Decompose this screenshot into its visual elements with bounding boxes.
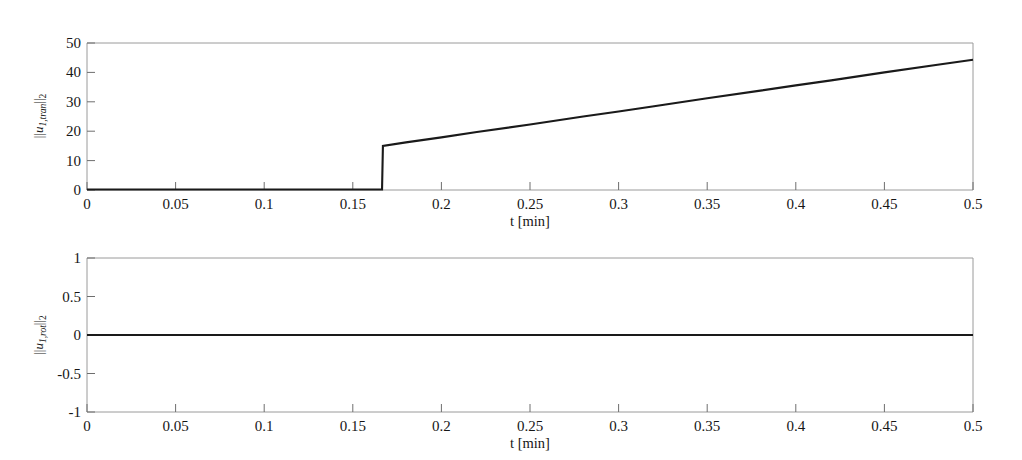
ylabel-subnorm: 2 [38,315,48,320]
x-ticklabel: 0.25 [517,418,543,434]
x-ticklabels-top: 0 0.05 0.1 0.15 0.2 0.25 0.3 0.35 0.4 0.… [83,196,982,212]
x-ticklabel: 0.1 [255,196,274,212]
x-ticklabel: 0.15 [340,418,366,434]
y-ticklabel: 50 [66,35,81,51]
x-ticklabel: 0.5 [964,418,983,434]
ylabel-subnorm: 2 [38,93,48,98]
y-ticklabel: 40 [66,64,81,80]
y-axis-label-top: ||u1,tran||2 [31,93,48,138]
x-ticklabel: 0.05 [162,418,188,434]
y-ticklabel: 0.5 [62,289,81,305]
x-ticklabel: 0.3 [609,418,628,434]
y-ticklabel: 30 [66,94,81,110]
chart-svg-bottom: -1 -0.5 0 0.5 1 0 [0,232,1022,460]
x-ticklabel: 0.3 [609,196,628,212]
x-ticklabel: 0.4 [786,196,805,212]
y-ticklabel: 1 [74,250,82,266]
x-axis-label-bottom: t [min] [510,435,550,451]
x-ticklabel: 0.05 [162,196,188,212]
x-ticklabel: 0.35 [694,418,720,434]
chart-panel-bottom: -1 -0.5 0 0.5 1 0 [0,232,1022,460]
x-ticks-bottom [87,404,973,412]
data-series-line-top [87,60,973,190]
x-ticklabel: 0.15 [340,196,366,212]
x-ticklabel: 0.2 [432,418,451,434]
chart-svg-top: 0 10 20 30 40 50 [0,0,1022,232]
axes-frame-top [87,43,973,190]
svg-text:||u1,tran||2: ||u1,tran||2 [31,93,48,138]
y-ticklabel: 20 [66,123,81,139]
x-ticklabel: 0.45 [871,196,897,212]
x-ticklabel: 0.25 [517,196,543,212]
y-ticklabel: -1 [69,404,82,420]
y-ticks-top [87,43,95,190]
y-ticklabel: 0 [74,182,82,198]
x-ticklabel: 0.5 [964,196,983,212]
x-ticklabel: 0.1 [255,418,274,434]
y-axis-label-bottom: ||u1,rot||2 [31,315,48,355]
x-ticklabel: 0.4 [786,418,805,434]
x-ticklabel: 0.35 [694,196,720,212]
x-ticklabel: 0 [83,196,91,212]
x-ticklabel: 0.2 [432,196,451,212]
y-ticklabel: 10 [66,153,81,169]
chart-panel-top: 0 10 20 30 40 50 [0,0,1022,232]
x-ticklabel: 0 [83,418,91,434]
x-axis-label-top: t [min] [510,213,550,229]
svg-text:||u1,rot||2: ||u1,rot||2 [31,315,48,355]
y-ticklabel: 0 [74,327,82,343]
x-ticklabel: 0.45 [871,418,897,434]
y-ticklabels-bottom: -1 -0.5 0 0.5 1 [57,250,81,420]
y-ticklabel: -0.5 [57,366,81,382]
y-ticklabels-top: 0 10 20 30 40 50 [66,35,81,198]
x-ticklabels-bottom: 0 0.05 0.1 0.15 0.2 0.25 0.3 0.35 0.4 0.… [83,418,982,434]
ylabel-subvar: 1,tran [38,103,48,126]
figure-container: 0 10 20 30 40 50 [0,0,1022,460]
ylabel-subvar: 1,rot [38,325,48,343]
